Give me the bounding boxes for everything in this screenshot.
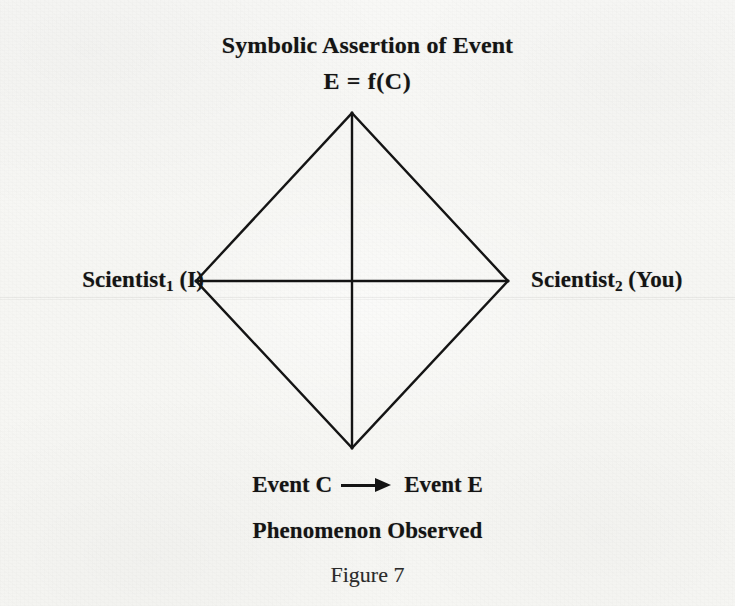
diamond-edge-bottom-right	[352, 281, 508, 448]
label-scientist-2-subscript: 2	[615, 277, 623, 294]
label-scientist-2-name: Scientist	[531, 267, 615, 292]
caption-phenomenon-observed: Phenomenon Observed	[0, 518, 735, 544]
label-scientist-1-name: Scientist	[82, 267, 166, 292]
diamond-edge-bottom-left	[196, 281, 352, 448]
label-scientist-2-qualifier: (You)	[628, 267, 682, 292]
label-scientist-2: Scientist2 (You)	[531, 267, 682, 295]
right-arrow-icon	[341, 477, 395, 493]
diamond-edge-top-right	[352, 113, 508, 281]
figure-title-formula: E = f(C)	[0, 68, 735, 95]
label-scientist-1-subscript: 1	[166, 277, 174, 294]
label-scientist-1: Scientist1 (I)	[82, 267, 204, 295]
figure-7-diagram: Symbolic Assertion of Event E = f(C) Sci…	[0, 0, 735, 606]
event-e-label: Event E	[404, 472, 483, 498]
label-scientist-1-qualifier: (I)	[179, 267, 204, 292]
event-c-label: Event C	[252, 472, 332, 498]
event-causality-row: Event C Event E	[0, 472, 735, 498]
diamond-edge-top-left	[196, 113, 352, 281]
caption-figure-number: Figure 7	[0, 562, 735, 588]
figure-title-line-1: Symbolic Assertion of Event	[0, 32, 735, 59]
